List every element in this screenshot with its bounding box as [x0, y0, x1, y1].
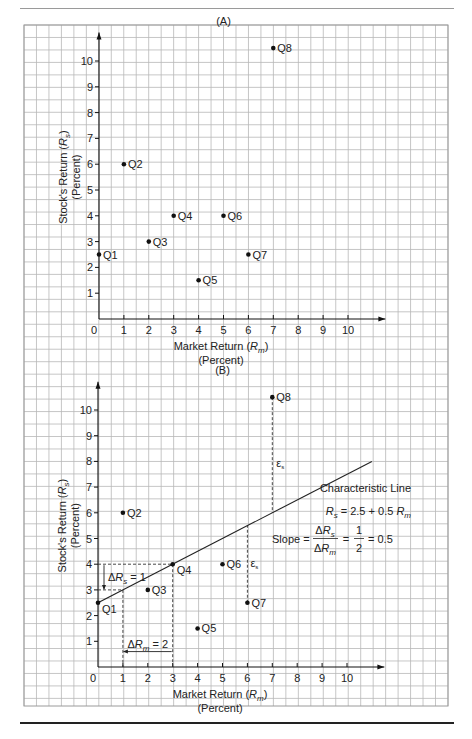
x-tick-label: 8 — [295, 324, 301, 336]
delta-rm-label: ΔRm = 2 — [127, 638, 168, 653]
point-label-q8: Q8 — [276, 391, 291, 403]
y-tick-label: 5 — [87, 184, 93, 196]
x-tick-label: 2 — [145, 672, 151, 684]
panel-title: (A) — [216, 15, 231, 27]
point-label-q7: Q7 — [251, 597, 266, 609]
x-tick-label: 1 — [120, 672, 126, 684]
point-label-q8: Q8 — [277, 42, 292, 54]
y-tick-label: 2 — [86, 610, 92, 622]
point-label-q4: Q4 — [177, 564, 192, 576]
data-point — [170, 562, 175, 567]
y-tick-label: 8 — [86, 455, 92, 467]
x-tick-label: 5 — [219, 672, 225, 684]
y-tick-label: 10 — [80, 404, 92, 416]
data-point — [271, 46, 276, 51]
epsilon-label-q8: εs — [276, 457, 284, 470]
svg-text:=: = — [343, 533, 349, 545]
y-tick-label: 9 — [86, 430, 92, 442]
x-tick-label: 1 — [121, 324, 127, 336]
y-tick-label: 3 — [86, 584, 92, 596]
x-tick-label: 9 — [319, 672, 325, 684]
x-tick-label: 0 — [90, 672, 96, 684]
point-label-q5: Q5 — [203, 274, 218, 286]
y-tick-label: 6 — [87, 158, 93, 170]
data-point — [196, 278, 201, 283]
y-tick-label: 8 — [87, 107, 93, 119]
y-tick-label: 4 — [87, 210, 93, 222]
point-label-q5: Q5 — [202, 622, 217, 634]
data-point — [221, 214, 226, 219]
y-tick-label: 7 — [87, 132, 93, 144]
point-label-q2: Q2 — [128, 158, 143, 170]
point-label-q3: Q3 — [152, 584, 167, 596]
delta-rs-arrow-icon — [102, 585, 106, 590]
data-point — [220, 562, 225, 567]
y-tick-label: 2 — [87, 261, 93, 273]
y-tick-label: 7 — [86, 481, 92, 493]
slope-label: Slope = — [272, 533, 310, 545]
data-point — [270, 395, 275, 400]
x-tick-label: 2 — [146, 324, 152, 336]
x-tick-label: 5 — [220, 324, 226, 336]
bottom-rule — [20, 722, 454, 724]
y-tick-label: 6 — [86, 507, 92, 519]
point-label-q1: Q1 — [102, 603, 117, 615]
epsilon-label-q7: εs — [250, 557, 258, 570]
x-tick-label: 6 — [245, 324, 251, 336]
point-label-q6: Q6 — [228, 210, 243, 222]
data-point — [147, 239, 152, 244]
x-tick-label: 4 — [196, 324, 202, 336]
point-label-q7: Q7 — [252, 249, 267, 261]
point-label-q1: Q1 — [103, 249, 118, 261]
x-tick-label: 4 — [195, 672, 201, 684]
point-label-q2: Q2 — [127, 507, 142, 519]
data-point — [96, 600, 101, 605]
x-tick-label: 9 — [320, 324, 326, 336]
x-axis-arrow-icon — [377, 665, 384, 670]
x-axis-arrow-icon — [378, 317, 385, 322]
characteristic-line-figure: (A)01234567891012345678910Market Return … — [0, 0, 472, 739]
y-axis-arrow-icon — [97, 33, 102, 40]
data-point — [195, 626, 200, 631]
x-axis-title: Market Return (Rm) — [174, 340, 269, 355]
data-point — [122, 162, 127, 167]
y-tick-label: 5 — [86, 533, 92, 545]
x-tick-label: 0 — [91, 324, 97, 336]
y-axis-arrow-icon — [96, 382, 101, 389]
point-label-q4: Q4 — [178, 210, 193, 222]
y-axis-units: (Percent) — [69, 503, 81, 548]
y-tick-label: 1 — [87, 287, 93, 299]
x-tick-label: 10 — [342, 324, 354, 336]
y-axis-units: (Percent) — [70, 154, 82, 199]
data-point — [146, 588, 151, 593]
scatter-panel-b: (B)01234567891012345678910Market Return … — [56, 364, 411, 714]
data-point — [245, 600, 250, 605]
x-tick-label: 10 — [341, 672, 353, 684]
x-axis-units: (Percent) — [197, 702, 242, 714]
x-tick-label: 7 — [270, 324, 276, 336]
y-tick-label: 1 — [86, 635, 92, 647]
slope-frac-num: 1 — [356, 524, 362, 536]
data-point — [121, 511, 126, 516]
x-tick-label: 3 — [171, 324, 177, 336]
data-point — [97, 252, 102, 257]
slope-value: = 0.5 — [368, 533, 393, 545]
point-label-q3: Q3 — [153, 236, 168, 248]
slope-frac-den: 2 — [356, 542, 362, 554]
characteristic-line-title: Characteristic Line — [320, 482, 411, 494]
point-label-q6: Q6 — [227, 558, 242, 570]
x-tick-label: 7 — [269, 672, 275, 684]
x-tick-label: 6 — [244, 672, 250, 684]
x-tick-label: 3 — [170, 672, 176, 684]
x-tick-label: 8 — [294, 672, 300, 684]
delta-rs-label: ΔRs = 1 — [108, 571, 146, 586]
y-tick-label: 9 — [87, 81, 93, 93]
panel-title: (B) — [215, 364, 230, 376]
y-tick-label: 4 — [86, 558, 92, 570]
x-axis-title: Market Return (Rm) — [173, 688, 268, 703]
slope-denominator: ΔRm — [314, 542, 336, 557]
data-point — [246, 252, 251, 257]
data-point — [171, 214, 176, 219]
y-tick-label: 10 — [81, 55, 93, 67]
y-tick-label: 3 — [87, 236, 93, 248]
